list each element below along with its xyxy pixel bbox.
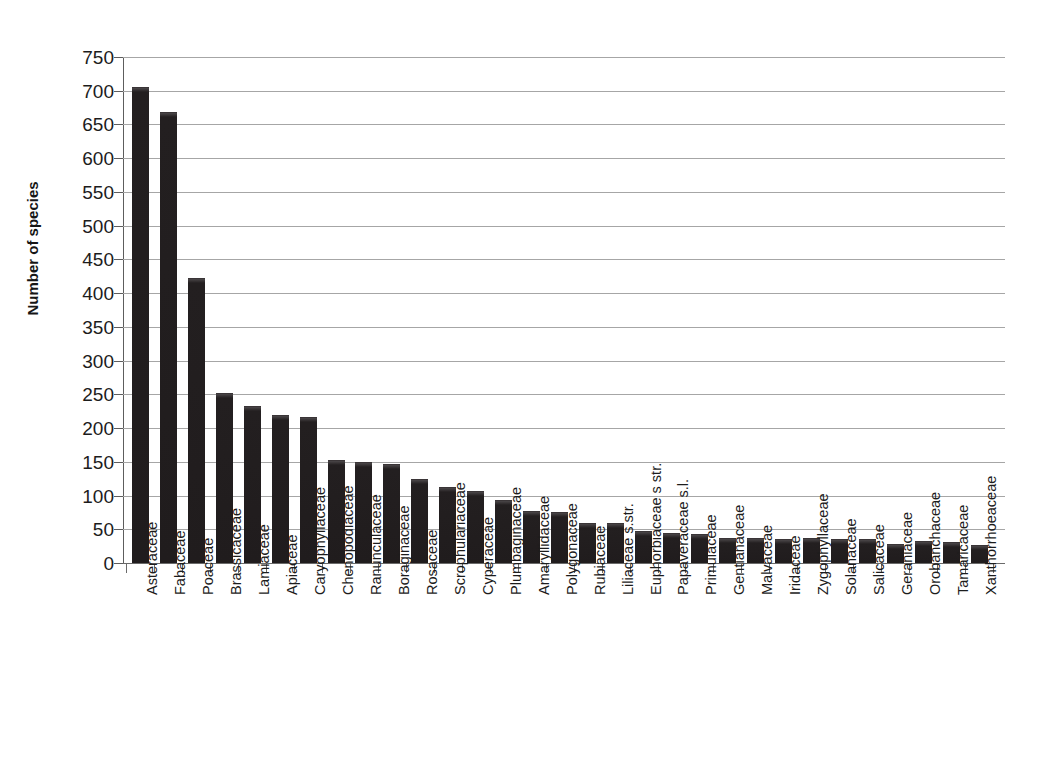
x-axis-label-text: Apiaceae xyxy=(285,535,300,595)
y-tick-label: 150 xyxy=(56,452,114,471)
x-axis-label: Salicaceae xyxy=(872,524,887,595)
x-axis-label-text: Geraniaceae xyxy=(900,512,915,595)
bar[interactable] xyxy=(160,112,177,563)
y-tick-label: 600 xyxy=(56,149,114,168)
x-axis-label-text: Asteraceae xyxy=(145,522,160,595)
x-axis-label: Solanaceae xyxy=(844,518,859,595)
x-axis-label: Poaceae xyxy=(201,538,216,595)
y-tick-mark xyxy=(114,259,123,260)
x-axis-label-text: Solanaceae xyxy=(844,518,859,595)
x-axis-label: Asteraceae xyxy=(145,522,160,595)
x-axis-label: Orobanchaceae xyxy=(928,492,943,595)
x-axis-label: Xanthorrhoeaceae xyxy=(984,476,999,595)
bar-chart: Number of species 0501001502002503003504… xyxy=(0,0,1046,780)
x-axis-label: Scrophulariaceae xyxy=(453,482,468,595)
x-axis-label: Liliaceae s.str. xyxy=(621,503,636,595)
x-axis-label: Primulaceae xyxy=(704,514,719,595)
y-tick-mark xyxy=(114,428,123,429)
x-axis-label-text: Tamaricaceae xyxy=(956,505,971,595)
bar[interactable] xyxy=(188,278,205,563)
y-tick-mark xyxy=(114,462,123,463)
bars-layer xyxy=(123,57,1005,563)
y-tick-label: 250 xyxy=(56,385,114,404)
x-axis-label: Apiaceae xyxy=(285,535,300,595)
x-axis-label-text: Lamiaceae xyxy=(257,524,272,595)
y-tick-mark xyxy=(114,361,123,362)
x-axis-label: Brassicaceae xyxy=(229,508,244,595)
x-axis-label: Tamaricaceae xyxy=(956,505,971,595)
x-axis-label-text: Malvaceae xyxy=(760,525,775,595)
x-axis-label-text: Boraginaceae xyxy=(397,506,412,596)
y-tick-mark xyxy=(114,192,123,193)
y-tick-label: 100 xyxy=(56,486,114,505)
y-tick-mark xyxy=(114,394,123,395)
x-axis-label-text: Iridaceae xyxy=(788,535,803,595)
y-tick-label: 450 xyxy=(56,250,114,269)
x-axis-label-text: Plumbaginaceae xyxy=(509,487,524,595)
y-tick-mark xyxy=(114,124,123,125)
x-axis-label-text: Liliaceae s.str. xyxy=(621,503,636,595)
x-axis-label: Iridaceae xyxy=(788,535,803,595)
x-axis-label-text: Zygophyllaceae xyxy=(816,493,831,595)
y-tick-mark xyxy=(114,158,123,159)
x-axis-label-text: Primulaceae xyxy=(704,514,719,595)
y-tick-mark xyxy=(114,327,123,328)
x-axis-label-text: Papaveraceae s.l. xyxy=(676,479,691,595)
y-tick-label: 350 xyxy=(56,317,114,336)
x-axis-label: Polygonaceae xyxy=(565,503,580,595)
x-axis-label-text: Brassicaceae xyxy=(229,508,244,595)
x-axis-label-text: Chenopodiaceae xyxy=(341,485,356,595)
x-axis-label-text: Amaryllidaceae xyxy=(537,496,552,595)
x-axis-label: Chenopodiaceae xyxy=(341,485,356,595)
y-tick-mark xyxy=(114,293,123,294)
y-tick-mark xyxy=(114,226,123,227)
x-axis-label: Lamiaceae xyxy=(257,524,272,595)
x-axis-label: Malvaceae xyxy=(760,525,775,595)
x-axis-label: Geraniaceae xyxy=(900,512,915,595)
y-tick-label: 300 xyxy=(56,351,114,370)
x-axis-label-text: Euphorbiaceae s str. xyxy=(649,463,664,595)
x-axis-label: Fabaceae xyxy=(173,531,188,596)
x-axis-label: Caryophyllaceae xyxy=(313,487,328,595)
y-tick-mark xyxy=(114,496,123,497)
x-axis-label: Boraginaceae xyxy=(397,506,412,596)
y-tick-label: 400 xyxy=(56,284,114,303)
x-axis-label-text: Gentianaceae xyxy=(732,505,747,595)
x-axis-label-text: Fabaceae xyxy=(173,531,188,596)
x-axis-label-text: Rosaceae xyxy=(425,530,440,595)
x-axis-label: Gentianaceae xyxy=(732,505,747,595)
y-tick-mark xyxy=(114,563,123,564)
x-axis-label-text: Xanthorrhoeaceae xyxy=(984,476,999,595)
y-axis-tick-labels: 0501001502002503003504004505005506006507… xyxy=(56,0,114,780)
x-axis-label-text: Polygonaceae xyxy=(565,503,580,595)
x-axis-label-text: Poaceae xyxy=(201,538,216,595)
x-axis-label: Zygophyllaceae xyxy=(816,493,831,595)
x-axis-label-text: Rubiaceae xyxy=(593,526,608,595)
y-tick-label: 700 xyxy=(56,81,114,100)
x-axis-label: Ranunculaceae xyxy=(369,494,384,595)
x-axis-label: Rosaceae xyxy=(425,530,440,595)
x-axis-label-text: Scrophulariaceae xyxy=(453,482,468,595)
x-axis-label-text: Salicaceae xyxy=(872,524,887,595)
y-tick-mark xyxy=(114,529,123,530)
x-axis-label: Amaryllidaceae xyxy=(537,496,552,595)
x-axis-label: Plumbaginaceae xyxy=(509,487,524,595)
x-axis-label: Papaveraceae s.l. xyxy=(676,479,691,595)
y-tick-label: 750 xyxy=(56,48,114,67)
y-tick-mark xyxy=(114,91,123,92)
x-axis-label-text: Caryophyllaceae xyxy=(313,487,328,595)
y-tick-label: 0 xyxy=(56,554,114,573)
y-tick-label: 550 xyxy=(56,182,114,201)
bar[interactable] xyxy=(132,87,149,563)
x-axis-label: Rubiaceae xyxy=(593,526,608,595)
x-axis-label: Euphorbiaceae s str. xyxy=(649,463,664,595)
y-tick-label: 650 xyxy=(56,115,114,134)
y-tick-label: 50 xyxy=(56,520,114,539)
y-tick-mark xyxy=(114,57,123,58)
x-axis-label-text: Ranunculaceae xyxy=(369,494,384,595)
x-axis-category-labels: AsteraceaeFabaceaePoaceaeBrassicaceaeLam… xyxy=(123,576,1005,776)
x-axis-label-text: Cyperaceae xyxy=(481,517,496,595)
x-axis-label-text: Orobanchaceae xyxy=(928,492,943,595)
x-axis-label: Cyperaceae xyxy=(481,517,496,595)
y-tick-label: 500 xyxy=(56,216,114,235)
